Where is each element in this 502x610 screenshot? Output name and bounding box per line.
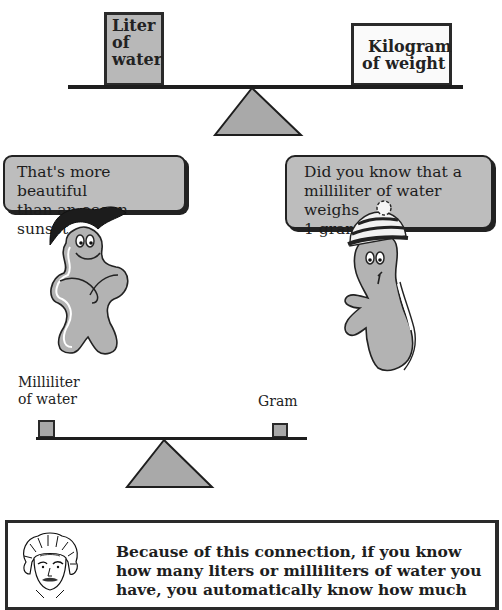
note-line-2: how many liters or milliliters of water … (116, 561, 496, 580)
left-water-drop-character-icon (36, 203, 136, 361)
note-line-3: have, you automatically know how much (116, 580, 496, 599)
note-line-1: Because of this connection, if you know (116, 542, 496, 561)
kilogram-of-weight-box: Kilogram of weight (351, 23, 452, 86)
liter-box-line-1: Liter (112, 17, 161, 34)
milliliter-label-line-2: of water (18, 391, 80, 408)
top-scale-fulcrum-icon (210, 86, 306, 138)
gram-label: Gram (258, 393, 298, 410)
kilogram-box-line-1: Kilogram (362, 38, 449, 55)
left-speech-line-1: That's more beautiful (17, 163, 174, 201)
right-water-drop-character-icon (336, 200, 436, 380)
gram-block (272, 423, 288, 438)
kilogram-box-line-2: of weight (362, 55, 449, 72)
right-speech-line-1: Did you know that a (304, 163, 481, 182)
note-text: Because of this connection, if you know … (116, 542, 496, 599)
scientist-portrait-icon (18, 532, 82, 598)
milliliter-of-water-label: Milliliter of water (18, 374, 80, 408)
liter-of-water-box: Liter of water (104, 12, 164, 86)
liter-box-line-3: water (112, 51, 161, 68)
milliliter-block (38, 420, 55, 438)
milliliter-label-line-1: Milliliter (18, 374, 80, 391)
liter-box-line-2: of (112, 34, 161, 51)
bottom-scale-fulcrum-icon (124, 438, 216, 490)
